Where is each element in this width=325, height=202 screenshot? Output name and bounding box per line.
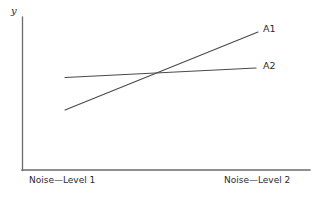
x-tick-label-level-2: Noise—Level 2 bbox=[224, 176, 290, 185]
chart-figure: y A1 A2 Noise—Level 1 Noise—Level 2 bbox=[0, 0, 325, 202]
chart-plot-area bbox=[0, 0, 325, 202]
series-label-a2: A2 bbox=[263, 61, 276, 71]
series-line-a1 bbox=[65, 32, 258, 110]
x-tick-label-level-1: Noise—Level 1 bbox=[29, 176, 95, 185]
y-axis-label: y bbox=[11, 6, 17, 16]
series-label-a1: A1 bbox=[263, 24, 276, 34]
series-line-a2 bbox=[65, 68, 256, 78]
